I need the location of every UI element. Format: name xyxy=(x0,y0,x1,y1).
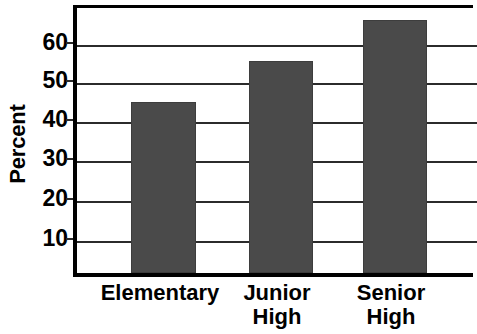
x-label-senior-high: Senior High xyxy=(336,281,446,329)
y-tick-label-60: 60 xyxy=(30,31,68,54)
y-axis-tick-labels: 60 50 40 30 20 10 xyxy=(26,0,68,334)
plot-inner xyxy=(77,8,473,273)
y-tick-label-40: 40 xyxy=(30,108,68,131)
x-label-elementary: Elementary xyxy=(95,281,225,305)
bar-senior-high xyxy=(363,20,427,273)
y-tick-label-30: 30 xyxy=(30,147,68,170)
y-tick-label-10: 10 xyxy=(30,227,68,250)
y-tick-label-20: 20 xyxy=(30,187,68,210)
bar-elementary xyxy=(131,102,196,273)
bar-junior-high xyxy=(249,61,313,273)
plot-area xyxy=(73,5,473,277)
x-label-junior-high: Junior High xyxy=(222,281,332,329)
y-tick-label-50: 50 xyxy=(30,69,68,92)
